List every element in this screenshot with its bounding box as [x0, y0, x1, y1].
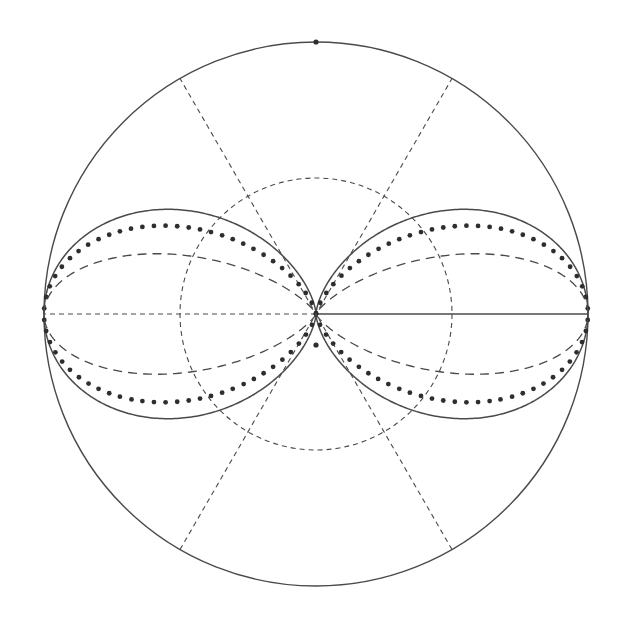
dotted-lobe-dot	[107, 391, 112, 396]
dotted-lobe-dot	[356, 364, 361, 369]
dotted-lobe-dot	[175, 224, 180, 229]
dotted-lobe-dot	[271, 364, 276, 369]
dotted-lobe-dot	[53, 274, 58, 279]
dotted-lobe-dot	[580, 284, 585, 289]
dotted-lobe-dot	[60, 359, 65, 364]
dotted-lobe-dot	[288, 273, 293, 278]
dotted-lobe-dot	[186, 225, 191, 230]
dotted-lobe-dot	[356, 259, 361, 264]
dotted-lobe-dot	[386, 382, 391, 387]
dotted-lobe-dot	[520, 391, 525, 396]
dotted-lobe-dot	[288, 350, 293, 355]
dotted-lobe-dot	[324, 291, 329, 296]
dotted-lobe-dot	[487, 225, 492, 230]
dotted-lobe-dot	[476, 400, 481, 405]
dotted-lobe-dot	[560, 367, 565, 372]
dotted-lobe-dot	[241, 241, 246, 246]
dotted-lobe-dot	[476, 224, 481, 229]
dotted-lobe-dot	[331, 341, 336, 346]
dotted-lobe-dot	[531, 386, 536, 391]
dotted-lobe-dot	[198, 227, 203, 232]
dotted-lobe-dot	[397, 386, 402, 391]
dotted-lobe-dot	[574, 350, 579, 355]
dotted-lobe-dot	[366, 252, 371, 257]
dotted-lobe-dot	[261, 252, 266, 257]
dotted-lobe-dot	[163, 223, 168, 228]
dotted-lobe-dot	[77, 375, 82, 380]
dotted-lobe-dot	[118, 394, 123, 399]
dotted-lobe-dot	[152, 224, 157, 229]
dotted-lobe-dot	[241, 382, 246, 387]
dotted-lobe-dot	[366, 371, 371, 376]
dotted-lobe-dot	[304, 332, 309, 337]
dotted-lobe-dot	[520, 232, 525, 237]
dotted-lobe-dot	[220, 233, 225, 238]
dotted-lobe-dot	[376, 246, 381, 251]
dotted-lobe-dot	[107, 232, 112, 237]
polar-diagram	[0, 0, 619, 619]
dotted-lobe-dot	[498, 397, 503, 402]
dotted-lobe-dot	[430, 227, 435, 232]
dotted-lobe-dot	[541, 381, 546, 386]
dotted-lobe-dot	[331, 282, 336, 287]
center-offset-dot	[313, 342, 318, 347]
dotted-lobe-dot	[309, 300, 314, 305]
dotted-lobe-dot	[175, 399, 180, 404]
dotted-lobe-dot	[186, 398, 191, 403]
dotted-lobe-dot	[574, 274, 579, 279]
dotted-lobe-dot	[376, 377, 381, 382]
dotted-lobe-dot	[551, 375, 556, 380]
dotted-lobe-dot	[568, 264, 573, 269]
dotted-lobe-dot	[560, 256, 565, 261]
dotted-lobe-dot	[230, 386, 235, 391]
dotted-lobe-dot	[76, 249, 81, 254]
dotted-lobe-dot	[567, 359, 572, 364]
dotted-lobe-dot	[347, 266, 352, 271]
dotted-lobe-dot	[407, 233, 412, 238]
dotted-lobe-dot	[163, 400, 168, 405]
dotted-lobe-dot	[452, 399, 457, 404]
dotted-lobe-dot	[464, 400, 469, 405]
dotted-lobe-dot	[541, 242, 546, 247]
dotted-lobe-dot	[347, 357, 352, 362]
dotted-lobe-dot	[261, 371, 266, 376]
dotted-lobe-dot	[48, 340, 53, 345]
dotted-lobe-dot	[230, 237, 235, 242]
dotted-lobe-dot	[441, 398, 446, 403]
dotted-lobe-dot	[251, 377, 256, 382]
dotted-lobe-dot	[452, 224, 457, 229]
dotted-lobe-dot	[140, 225, 145, 230]
dotted-lobe-dot	[324, 332, 329, 337]
dotted-lobe-dot	[397, 237, 402, 242]
dotted-lobe-dot	[220, 390, 225, 395]
dotted-lobe-dot	[68, 256, 73, 261]
dotted-lobe-dot	[510, 229, 515, 234]
dotted-lobe-dot	[430, 396, 435, 401]
dotted-lobe-dot	[44, 329, 49, 334]
dotted-lobe-dot	[386, 241, 391, 246]
dotted-lobe-dot	[209, 394, 214, 399]
dotted-lobe-dot	[280, 266, 285, 271]
dotted-lobe-dot	[118, 229, 123, 234]
dotted-lobe-dot	[531, 237, 536, 242]
dotted-lobe-dot	[296, 282, 301, 287]
dotted-lobe-dot	[441, 225, 446, 230]
dotted-lobe-dot	[209, 230, 214, 235]
dotted-lobe-dot	[271, 259, 276, 264]
dotted-lobe-dot	[303, 291, 308, 296]
dotted-lobe-dot	[419, 394, 424, 399]
dotted-lobe-dot	[464, 223, 469, 228]
dotted-lobe-dot	[86, 242, 91, 247]
dotted-lobe-dot	[140, 399, 145, 404]
dotted-lobe-dot	[551, 249, 556, 254]
dotted-lobe-dot	[152, 400, 157, 405]
dotted-lobe-dot	[68, 367, 73, 372]
dotted-lobe-dot	[339, 273, 344, 278]
dotted-lobe-dot	[419, 230, 424, 235]
dotted-lobe-dot	[339, 350, 344, 355]
dotted-lobe-dot	[407, 390, 412, 395]
top-pole-dot	[313, 39, 318, 44]
dotted-lobe-dot	[487, 399, 492, 404]
dotted-lobe-dot	[296, 341, 301, 346]
dotted-lobe-dot	[129, 226, 134, 231]
